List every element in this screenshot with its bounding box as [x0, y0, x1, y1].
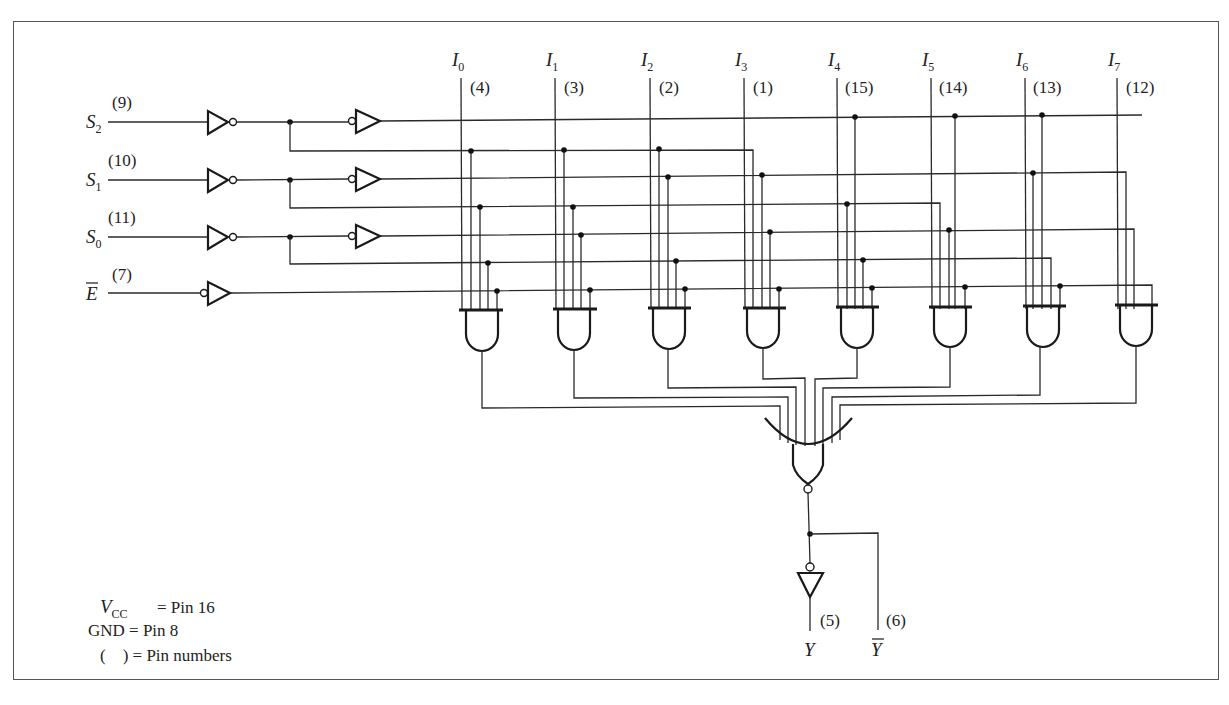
- pins-note: ( ) = Pin numbers: [100, 646, 232, 665]
- i0-label: I0: [451, 49, 464, 74]
- inverter-icon: [208, 169, 228, 192]
- s1-pin: (10): [108, 151, 136, 170]
- select-s2: S2 (9): [86, 93, 1142, 309]
- inverter-icon: [208, 226, 228, 249]
- s2-label: S2: [86, 111, 102, 136]
- i2-label: I2: [640, 49, 653, 74]
- mux-schematic: S2 (9) S1 (10) S0 (11): [0, 0, 1229, 705]
- gnd-note: GND = Pin 8: [88, 621, 178, 640]
- and-gate-3: [743, 308, 786, 348]
- i3-label: I3: [734, 49, 747, 74]
- buffer-icon: [356, 225, 380, 248]
- s0-label: S0: [86, 226, 102, 251]
- select-taps: [468, 112, 1063, 309]
- i1-pin: (3): [564, 78, 584, 97]
- s1-label: S1: [86, 169, 102, 194]
- select-s0: S0 (11): [86, 208, 1134, 309]
- s0-pin: (11): [108, 208, 136, 227]
- and-gate-1: [553, 309, 597, 350]
- legend: VCC = Pin 16 GND = Pin 8 ( ) = Pin numbe…: [88, 596, 232, 665]
- y-pin: (5): [820, 611, 840, 630]
- y-label: Y: [804, 639, 817, 660]
- i4-pin: (15): [845, 78, 873, 97]
- i2-pin: (2): [659, 78, 679, 97]
- i6-label: I6: [1015, 49, 1028, 74]
- buffer-icon: [356, 168, 380, 191]
- ybar-label: Y: [871, 639, 884, 660]
- and-gate-0: [459, 310, 503, 351]
- vcc-label: VCC: [100, 596, 128, 621]
- i7-pin: (12): [1126, 78, 1154, 97]
- i7-label: I7: [1107, 49, 1120, 74]
- nor-gate: [765, 418, 852, 493]
- and-gate-5: [929, 307, 972, 347]
- and-to-or-wires: [482, 345, 1136, 446]
- and-gate-7: [1115, 305, 1158, 346]
- buffer-icon: [208, 282, 230, 305]
- i4-label: I4: [827, 49, 840, 74]
- inverter-icon: [208, 111, 228, 134]
- i1-label: I1: [545, 49, 558, 74]
- i5-pin: (14): [939, 78, 967, 97]
- ybar-pin: (6): [886, 611, 906, 630]
- enable-label: E: [85, 283, 98, 304]
- and-gate-4: [836, 307, 879, 348]
- buffer-icon: [356, 110, 380, 133]
- enable-input: E (7): [85, 265, 1152, 309]
- and-gate-2: [648, 308, 691, 349]
- i0-pin: (4): [470, 78, 490, 97]
- and-gate-6: [1023, 306, 1066, 347]
- i5-label: I5: [921, 49, 934, 74]
- and-gates: [459, 305, 1158, 351]
- data-inputs: I0 (4) I1 (3) I2 (2) I3 (1) I4 (15) I5 (…: [451, 49, 1154, 309]
- enable-pin: (7): [112, 265, 132, 284]
- output-inverter-icon: [798, 573, 823, 597]
- s2-pin: (9): [112, 93, 132, 112]
- i3-pin: (1): [753, 78, 773, 97]
- outputs: (5) Y (6) Y: [798, 493, 906, 660]
- vcc-value: = Pin 16: [157, 598, 215, 617]
- i6-pin: (13): [1033, 78, 1061, 97]
